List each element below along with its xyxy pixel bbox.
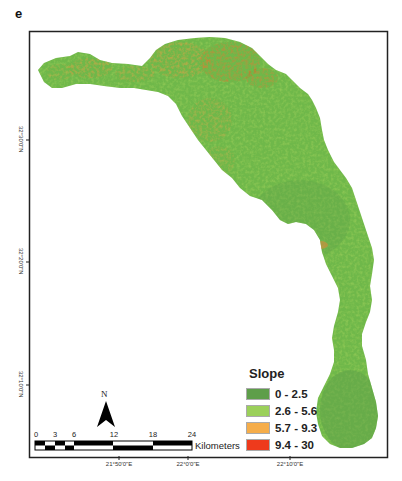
lon-label: 22°0'0"E: [176, 461, 199, 467]
scale-tick-label: 24: [188, 430, 196, 439]
legend-title: Slope: [249, 366, 317, 381]
scale-tick-label: 6: [72, 430, 76, 439]
legend-swatch: [246, 388, 270, 400]
legend-item: 9.4 - 30: [246, 436, 317, 453]
scale-tick-label: 3: [53, 430, 57, 439]
scale-unit-label: Kilometers: [195, 440, 240, 451]
scale-tick-label: 0: [34, 430, 38, 439]
scale-bar: [35, 441, 192, 450]
legend-label: 5.7 - 9.3: [275, 422, 317, 434]
legend-label: 9.4 - 30: [275, 439, 314, 451]
scale-tick-label: 12: [110, 430, 118, 439]
legend-item: 2.6 - 5.6: [246, 402, 317, 419]
lon-label: 22°10'0"E: [277, 461, 303, 467]
scale-tick-label: 18: [149, 430, 157, 439]
map-canvas: [0, 0, 402, 481]
lat-label: 32°20'0"N: [18, 248, 24, 275]
slope-flat-zone: [320, 370, 380, 450]
legend-swatch: [246, 422, 270, 434]
legend-label: 0 - 2.5: [275, 388, 308, 400]
slope-flat-zone: [250, 180, 350, 260]
legend-item: 0 - 2.5: [246, 385, 317, 402]
legend-swatch: [246, 405, 270, 417]
north-arrow-icon: [97, 401, 115, 427]
legend-label: 2.6 - 5.6: [275, 405, 317, 417]
lat-label: 32°10'0"N: [18, 371, 24, 398]
north-label: N: [101, 389, 108, 399]
lat-label: 32°30'0"N: [18, 126, 24, 153]
legend: Slope 0 - 2.5 2.6 - 5.6 5.7 - 9.3 9.4 - …: [246, 366, 317, 453]
legend-swatch: [246, 439, 270, 451]
lon-label: 21°50'0"E: [106, 461, 132, 467]
legend-item: 5.7 - 9.3: [246, 419, 317, 436]
